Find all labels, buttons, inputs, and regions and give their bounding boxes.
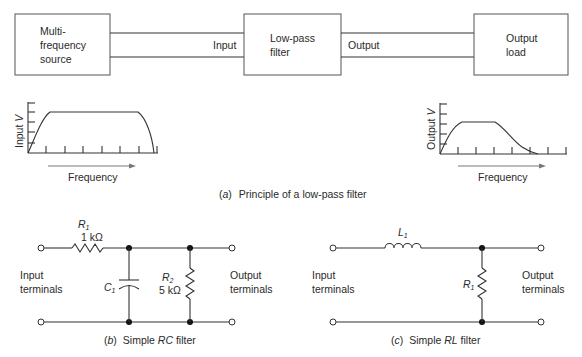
input-xlabel: Frequency — [68, 171, 118, 183]
r2-value: 5 kΩ — [159, 284, 181, 296]
source-label-1: Multi- — [40, 25, 66, 37]
rl-output-label-2: terminals — [522, 283, 565, 295]
rl-r1-resistor-icon — [478, 268, 486, 299]
filter-box — [244, 14, 341, 75]
output-ylabel: Output V — [425, 108, 437, 150]
rl-input-terminal-bottom — [330, 319, 336, 325]
rl-output-terminal-top — [538, 245, 544, 251]
r1-value: 1 kΩ — [81, 231, 103, 243]
load-label-1: Output — [506, 32, 538, 44]
rc-output-label-2: terminals — [230, 283, 273, 295]
output-x-ticks — [458, 147, 566, 154]
caption-c: (c)Simple RL filter — [391, 334, 481, 346]
rc-output-terminal-top — [229, 245, 235, 251]
input-graph: Frequency Input V — [13, 102, 158, 183]
rc-input-label-1: Input — [20, 269, 43, 281]
output-response-curve — [440, 122, 538, 154]
rc-circuit: R1 1 kΩ C1 R2 5 kΩ Input terminals Outpu… — [20, 218, 273, 325]
rc-output-label-1: Output — [230, 269, 262, 281]
r2-label: R2 — [162, 271, 174, 284]
r1-resistor-icon — [72, 244, 103, 252]
input-arrowhead-icon — [129, 164, 136, 169]
output-signal-label: Output — [348, 39, 380, 51]
input-y-ticks — [28, 103, 35, 143]
rl-input-terminal-top — [330, 245, 336, 251]
r2-resistor-icon — [186, 268, 194, 299]
c1-label: C1 — [104, 281, 116, 294]
rl-circuit: L1 R1 Input terminals Output terminals — [312, 226, 565, 325]
load-label-2: load — [506, 46, 526, 58]
rc-output-terminal-bottom — [229, 319, 235, 325]
output-xlabel: Frequency — [478, 171, 528, 183]
rl-output-terminal-bottom — [538, 319, 544, 325]
rc-input-terminal-bottom — [38, 319, 44, 325]
rc-input-terminal-top — [38, 245, 44, 251]
filter-label-1: Low-pass — [270, 32, 315, 44]
rc-input-label-2: terminals — [20, 283, 63, 295]
filter-label-2: filter — [270, 46, 290, 58]
input-ylabel: Input V — [13, 114, 25, 148]
rl-output-label-1: Output — [522, 269, 554, 281]
input-signal-label: Input — [213, 39, 236, 51]
output-graph: Frequency Output V — [425, 103, 567, 183]
caption-b: (b)Simple RC filter — [104, 334, 196, 346]
source-label-3: source — [40, 53, 72, 65]
input-response-curve — [28, 112, 154, 153]
l1-label: L1 — [398, 226, 408, 239]
rl-r1-label: R1 — [463, 278, 475, 291]
r1-label: R1 — [78, 218, 90, 231]
rl-input-label-2: terminals — [312, 283, 355, 295]
output-arrowhead-icon — [539, 164, 546, 169]
load-box — [474, 14, 568, 75]
caption-a: (a) Principle of a low-pass filter — [219, 188, 367, 200]
rl-input-label-1: Input — [312, 269, 335, 281]
low-pass-filter-figure: Multi- frequency source Input Low-pass f… — [0, 0, 582, 357]
block-diagram: Multi- frequency source Input Low-pass f… — [15, 14, 568, 75]
l1-inductor-icon — [385, 244, 421, 249]
source-label-2: frequency — [40, 39, 87, 51]
output-y-ticks — [440, 104, 447, 144]
input-x-ticks — [46, 146, 157, 153]
